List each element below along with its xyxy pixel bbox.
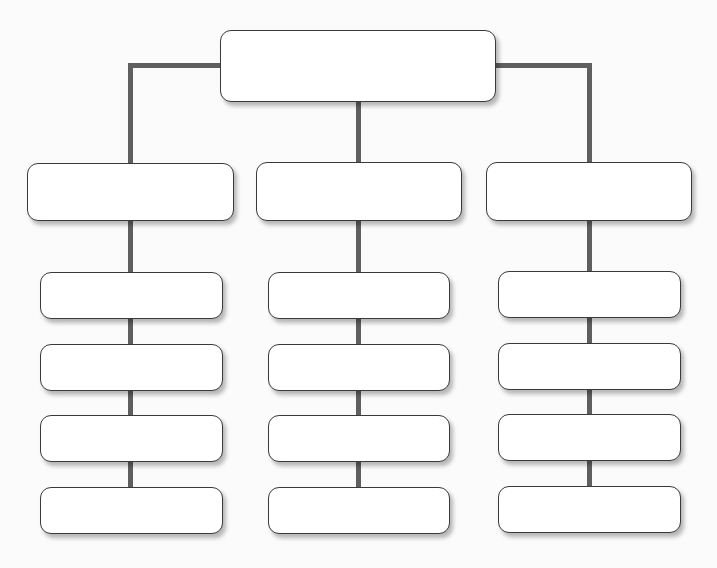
org-box-root[interactable] [220,30,496,102]
org-box-middle-item-1[interactable] [268,272,450,319]
connector-root-to-middle [356,100,361,163]
org-box-middle-header[interactable] [256,162,462,221]
org-box-middle-item-2[interactable] [268,344,450,391]
org-box-right-item-1[interactable] [498,271,681,318]
org-box-left-header[interactable] [27,163,234,221]
org-box-middle-item-3[interactable] [268,415,450,462]
org-box-right-header[interactable] [486,162,692,221]
org-box-right-item-2[interactable] [498,343,681,390]
org-box-left-item-3[interactable] [40,415,223,462]
org-box-right-item-4[interactable] [498,486,681,533]
org-box-left-item-2[interactable] [40,344,223,391]
org-box-middle-item-4[interactable] [268,487,450,534]
org-box-right-item-3[interactable] [498,414,681,461]
connector-root-to-left [128,63,133,163]
org-box-left-item-4[interactable] [40,487,223,534]
connector-root-to-right [587,63,592,163]
org-box-left-item-1[interactable] [40,272,223,319]
